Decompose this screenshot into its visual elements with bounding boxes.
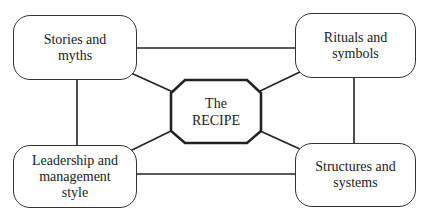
edge-center-stories: [131, 73, 173, 92]
edge-center-leadership: [130, 130, 173, 151]
node-structures-and-systems: Structures and systems: [295, 143, 416, 207]
node-stories-and-myths: Stories and myths: [13, 15, 137, 80]
node-label: Stories and myths: [44, 32, 107, 64]
node-leadership-and-management-style: Leadership and management style: [13, 145, 137, 208]
edge-center-rituals: [258, 71, 302, 92]
node-rituals-and-symbols: Rituals and symbols: [295, 13, 416, 78]
node-label: Structures and systems: [315, 159, 395, 191]
center-node-label: The RECIPE: [170, 80, 262, 143]
node-label: Rituals and symbols: [324, 30, 387, 62]
edge-center-structures: [258, 130, 302, 150]
node-label: Leadership and management style: [32, 153, 118, 201]
